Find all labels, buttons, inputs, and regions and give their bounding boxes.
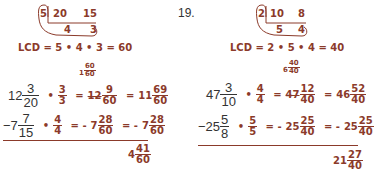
right-result: 212740 <box>333 150 363 171</box>
left-result: 44160 <box>128 144 151 165</box>
right-dividend-2: 8 <box>298 8 305 19</box>
left-row-1: 12320 •33 =12960 =116960 <box>8 82 168 109</box>
left-sum-line <box>3 140 148 141</box>
right-quotient-1: 5 <box>276 24 283 35</box>
left-borrow: 16060 <box>79 60 96 79</box>
problem-number: 19. <box>178 6 195 20</box>
right-row-2: −2558 •55 = -252540 = -252540 <box>198 113 374 140</box>
left-dividend-1: 20 <box>53 8 67 19</box>
right-sum-line <box>198 145 358 146</box>
left-quotient-1: 4 <box>64 24 71 35</box>
right-borrow: 64040 <box>283 57 300 76</box>
left-lcd-line: LCD = 5 • 4 • 3 = 60 <box>18 42 132 53</box>
left-dividend-2: 15 <box>83 8 97 19</box>
right-row-1: 47310 •44 =471240 =465240 <box>206 81 366 108</box>
left-divisor: 5 <box>40 8 47 19</box>
left-quotient-2: 3 <box>90 24 97 35</box>
right-dividend-1: 10 <box>270 8 284 19</box>
right-quotient-2: 4 <box>298 24 305 35</box>
right-divisor: 2 <box>258 8 265 19</box>
left-row-2: −7715 •44 = -72860 = -72860 <box>3 112 165 139</box>
right-lcd-line: LCD = 2 • 5 • 4 = 40 <box>230 42 344 53</box>
